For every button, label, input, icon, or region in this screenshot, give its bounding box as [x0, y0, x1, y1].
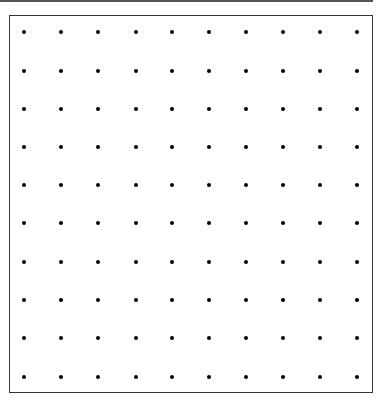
grid-dot	[355, 336, 359, 340]
grid-dot	[96, 221, 100, 225]
grid-dot	[96, 260, 100, 264]
grid-dot	[170, 336, 174, 340]
grid-dot	[170, 260, 174, 264]
grid-dot	[244, 183, 248, 187]
grid-dot	[281, 145, 285, 149]
grid-dot	[355, 375, 359, 379]
grid-dot	[318, 145, 322, 149]
grid-dot	[355, 107, 359, 111]
grid-dot	[59, 298, 63, 302]
grid-dot	[96, 30, 100, 34]
grid-dot	[318, 30, 322, 34]
grid-dot	[96, 145, 100, 149]
grid-dot	[22, 298, 26, 302]
grid-dot	[59, 145, 63, 149]
grid-dot	[59, 69, 63, 73]
grid-dot	[355, 298, 359, 302]
grid-dot	[22, 260, 26, 264]
grid-dot	[134, 260, 138, 264]
grid-dot	[22, 183, 26, 187]
grid-dot	[355, 145, 359, 149]
grid-dot	[59, 107, 63, 111]
grid-dot	[134, 107, 138, 111]
grid-dot	[207, 336, 211, 340]
grid-dot	[244, 336, 248, 340]
grid-dot	[281, 69, 285, 73]
grid-dot	[22, 107, 26, 111]
grid-dot	[59, 221, 63, 225]
grid-dot	[134, 69, 138, 73]
grid-dot	[355, 221, 359, 225]
grid-dot	[22, 145, 26, 149]
grid-dot	[207, 260, 211, 264]
grid-dot	[96, 183, 100, 187]
grid-dot	[318, 260, 322, 264]
grid-dot	[134, 336, 138, 340]
grid-dot	[134, 298, 138, 302]
grid-dot	[244, 260, 248, 264]
grid-dot	[134, 30, 138, 34]
grid-dot	[281, 221, 285, 225]
grid-dot	[207, 30, 211, 34]
grid-dot	[244, 221, 248, 225]
grid-dot	[59, 260, 63, 264]
grid-dot	[318, 69, 322, 73]
grid-dot	[170, 298, 174, 302]
grid-dot	[22, 375, 26, 379]
grid-dot	[207, 107, 211, 111]
grid-dot	[207, 183, 211, 187]
grid-dot	[318, 375, 322, 379]
grid-dot	[22, 336, 26, 340]
grid-dot	[134, 221, 138, 225]
grid-dot	[244, 375, 248, 379]
grid-dot	[22, 221, 26, 225]
grid-dot	[22, 30, 26, 34]
grid-dot	[281, 30, 285, 34]
grid-dot	[207, 69, 211, 73]
grid-dot	[318, 298, 322, 302]
grid-dot	[134, 145, 138, 149]
grid-dot	[281, 298, 285, 302]
grid-dot	[207, 375, 211, 379]
grid-dot	[244, 298, 248, 302]
grid-dot	[318, 336, 322, 340]
grid-dot	[318, 183, 322, 187]
grid-dot	[170, 107, 174, 111]
grid-dot	[96, 69, 100, 73]
grid-dot	[134, 375, 138, 379]
grid-dot	[96, 107, 100, 111]
grid-dot	[59, 336, 63, 340]
grid-dot	[170, 145, 174, 149]
grid-dot	[281, 336, 285, 340]
grid-dot	[355, 30, 359, 34]
grid-dot	[318, 107, 322, 111]
grid-dot	[207, 221, 211, 225]
grid-dot	[170, 375, 174, 379]
grid-dot	[281, 183, 285, 187]
grid-dot	[244, 69, 248, 73]
grid-dot	[355, 260, 359, 264]
grid-dot	[207, 145, 211, 149]
grid-dot	[170, 69, 174, 73]
grid-dot	[281, 260, 285, 264]
grid-dot	[207, 298, 211, 302]
grid-dot	[96, 298, 100, 302]
grid-dot	[59, 183, 63, 187]
grid-dot	[281, 375, 285, 379]
grid-dot	[59, 30, 63, 34]
grid-dot	[96, 336, 100, 340]
grid-dot	[355, 69, 359, 73]
grid-dot	[355, 183, 359, 187]
grid-dot	[170, 30, 174, 34]
grid-dot	[134, 183, 138, 187]
grid-dot	[244, 107, 248, 111]
grid-dot	[244, 145, 248, 149]
grid-dot	[22, 69, 26, 73]
grid-dot	[170, 183, 174, 187]
grid-dot	[59, 375, 63, 379]
grid-dot	[96, 375, 100, 379]
grid-dot	[318, 221, 322, 225]
grid-dot	[281, 107, 285, 111]
top-rule-divider	[0, 0, 373, 2]
grid-dot	[244, 30, 248, 34]
